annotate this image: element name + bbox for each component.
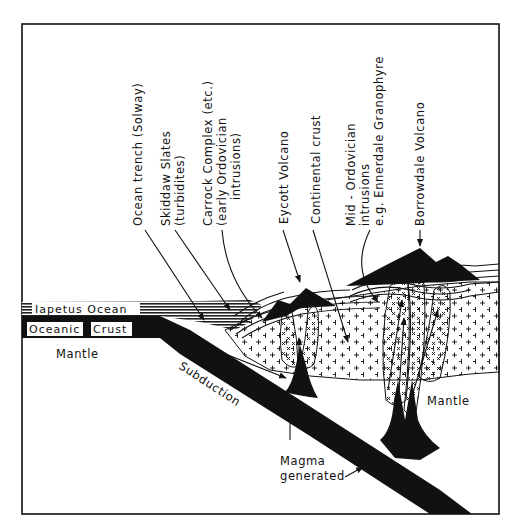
label-crust: Crust xyxy=(93,323,127,336)
label-generated: generated xyxy=(280,469,345,483)
label-ocean-trench: Ocean trench (Solway) xyxy=(131,83,145,226)
label-borrowdale-volcano: Borrowdale Volcano xyxy=(413,102,427,226)
label-mid-ordovician: Mid - Ordovician xyxy=(344,123,358,226)
label-iapetus-ocean: Iapetus Ocean xyxy=(35,303,127,316)
label-intrusions: intrusions) xyxy=(229,132,243,200)
label-mantle-left: Mantle xyxy=(56,347,99,361)
label-mantle-right: Mantle xyxy=(427,394,470,408)
label-ennerdale-granophyre: e.g. Ennerdale Granophyre xyxy=(372,56,386,226)
label-magma: Magma xyxy=(280,454,326,468)
label-turbidites: (turbidites) xyxy=(173,155,187,226)
label-eycott-volcano: Eycott Volcano xyxy=(277,131,291,224)
label-mid-ordovician-intrusions: intrusions xyxy=(358,163,372,226)
label-skiddaw-slates: Skiddaw Slates xyxy=(159,131,173,226)
label-early-ordovician: (early Ordovician xyxy=(215,117,229,226)
label-carrock-complex: Carrock Complex (etc.) xyxy=(201,80,215,226)
label-continental-crust: Continental crust xyxy=(309,115,323,224)
label-oceanic: Oceanic xyxy=(29,323,80,336)
subduction-diagram: Ocean trench (Solway) Skiddaw Slates (tu… xyxy=(0,0,521,529)
